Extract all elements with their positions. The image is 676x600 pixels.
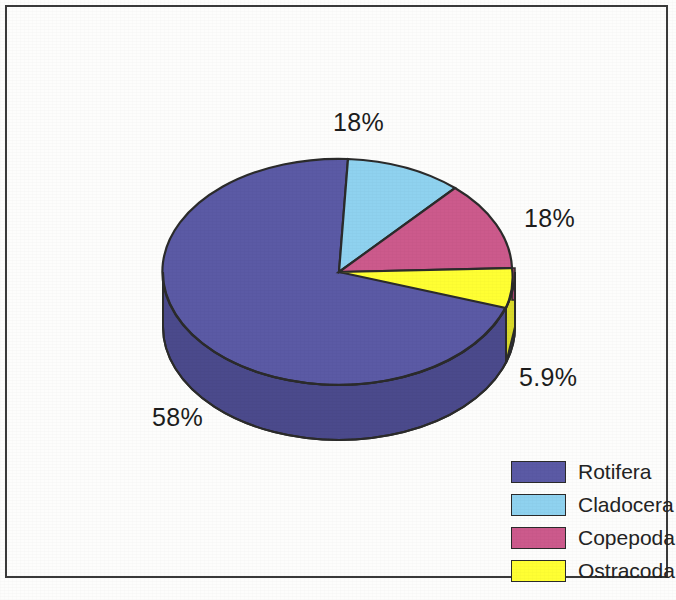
legend-label-cladocera: Cladocera [578,493,674,517]
data-label-ostracoda: 5.9% [519,363,577,392]
data-label-rotifera: 58% [152,403,203,432]
legend-item-ostracoda: Ostracoda [511,557,676,584]
legend-swatch-ostracoda [511,560,566,582]
chart-legend: Rotifera Cladocera Copepoda Ostracoda [511,458,676,590]
legend-label-ostracoda: Ostracoda [578,559,675,583]
pie-chart-figure: 18% 18% 5.9% 58% Rotifera Cladocera Cope… [0,0,676,600]
legend-item-rotifera: Rotifera [511,458,676,485]
legend-swatch-cladocera [511,494,566,516]
legend-swatch-copepoda [511,527,566,549]
legend-label-copepoda: Copepoda [578,526,675,550]
data-label-copepoda: 18% [524,204,575,233]
legend-swatch-rotifera [511,461,566,483]
legend-item-copepoda: Copepoda [511,524,676,551]
legend-item-cladocera: Cladocera [511,491,676,518]
data-label-cladocera: 18% [333,108,384,137]
legend-label-rotifera: Rotifera [578,460,652,484]
